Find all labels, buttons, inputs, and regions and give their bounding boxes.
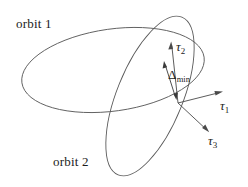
tau-2-label: τ2 — [176, 40, 185, 56]
tau-2-subscript: 2 — [181, 46, 186, 56]
tau-1-label: τ1 — [220, 99, 229, 115]
tau-3-label: τ3 — [208, 134, 217, 150]
orbit-1-label: orbit 1 — [16, 17, 52, 30]
delta-min-label: Δmin — [168, 68, 190, 83]
tau-3-axis — [178, 103, 209, 132]
tau-3-subscript: 3 — [213, 140, 218, 150]
orbit-2-label: orbit 2 — [53, 155, 89, 168]
tau-1-subscript: 1 — [225, 105, 230, 115]
orbit-2-ellipse — [88, 5, 213, 187]
orbit-intersection-figure: orbit 1 orbit 2 τ1 τ2 τ3 Δmin — [0, 0, 248, 187]
tau-1-symbol: τ — [220, 98, 225, 113]
delta-subscript: min — [177, 74, 190, 84]
tau-2-symbol: τ — [176, 39, 181, 54]
delta-symbol: Δ — [168, 67, 176, 82]
tau-3-symbol: τ — [208, 133, 213, 148]
